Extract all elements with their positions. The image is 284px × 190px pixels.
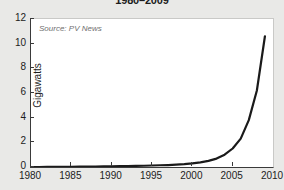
x-tick-label: 2005 (212, 171, 252, 181)
x-tick-mark (191, 162, 192, 166)
x-tick-label: 1990 (91, 171, 131, 181)
y-tick-label: 4 (4, 112, 26, 122)
x-axis: 1980198519901995200020052010 (30, 18, 272, 166)
x-tick-label: 2000 (171, 171, 211, 181)
y-tick-label: 2 (4, 136, 26, 146)
y-tick-label: 10 (4, 38, 26, 48)
x-tick-label: 2010 (252, 171, 284, 181)
y-tick-label: 8 (4, 62, 26, 72)
x-tick-mark (232, 162, 233, 166)
solar-pv-chart-figure: 1980–2009 Source: PV News Gigawatts 0246… (0, 0, 284, 190)
x-tick-mark (111, 162, 112, 166)
x-tick-label: 1985 (50, 171, 90, 181)
y-tick-label: 6 (4, 87, 26, 97)
y-tick-mark (30, 166, 34, 167)
y-tick-label: 12 (4, 13, 26, 23)
chart-title: 1980–2009 (0, 0, 284, 6)
x-tick-mark (151, 162, 152, 166)
x-tick-mark (70, 162, 71, 166)
x-tick-label: 1995 (131, 171, 171, 181)
x-tick-label: 1980 (10, 171, 50, 181)
